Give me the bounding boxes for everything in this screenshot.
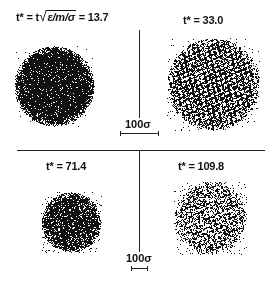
divider-horizontal (17, 150, 265, 151)
scale-line (131, 268, 147, 269)
scale-line (120, 133, 158, 134)
scale-bar-bottom: 100σ (126, 252, 166, 278)
sqrt-expression: √ε/m/σ (39, 8, 76, 24)
scale-tick-left (131, 266, 132, 271)
label-prefix: t* = t (16, 11, 39, 23)
panel-label-top-left: t* = t√ε/m/σ = 13.7 (16, 8, 108, 24)
scale-tick-right (147, 266, 148, 271)
divider-vertical-bottom (139, 150, 140, 252)
panel-label-bottom-right: t* = 109.8 (178, 160, 224, 172)
simulation-figure: t* = t√ε/m/σ = 13.7 t* = 33.0 t* = 71.4 … (0, 0, 278, 290)
scale-tick-left (120, 131, 121, 136)
scale-bar-top: 100σ (120, 118, 160, 138)
divider-vertical-top (139, 30, 140, 118)
panel-label-bottom-left: t* = 71.4 (46, 160, 86, 172)
scale-label: 100σ (126, 252, 152, 264)
panel-label-top-right: t* = 33.0 (183, 14, 223, 26)
scale-tick-right (158, 131, 159, 136)
radicand: ε/m/σ (46, 10, 75, 23)
scale-label: 100σ (125, 118, 151, 130)
label-suffix: = 13.7 (79, 11, 109, 23)
